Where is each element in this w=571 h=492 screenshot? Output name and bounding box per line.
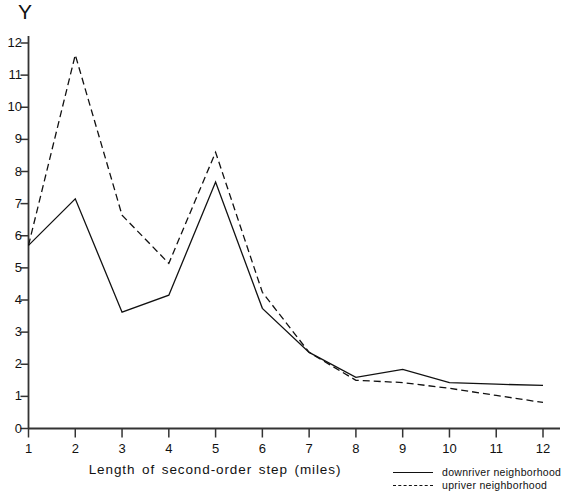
y-tick-label: 11	[0, 67, 22, 82]
legend-item-downriver: downriver neighborhood	[393, 466, 561, 479]
y-tick-label: 4	[0, 292, 22, 307]
x-axis-title: Length of second-order step (miles)	[0, 462, 430, 477]
x-tick-label: 12	[532, 441, 554, 456]
x-tick-label: 4	[158, 441, 180, 456]
x-axis-ticks	[29, 429, 544, 438]
x-tick-label: 2	[64, 441, 86, 456]
series-line-downriver	[29, 182, 544, 385]
y-tick-label: 3	[0, 324, 22, 339]
x-tick-label: 6	[251, 441, 273, 456]
series-line-upriver	[29, 55, 544, 403]
legend-label-downriver: downriver neighborhood	[442, 466, 561, 479]
x-tick-label: 7	[298, 441, 320, 456]
y-tick-label: 7	[0, 196, 22, 211]
x-tick-label: 1	[18, 441, 40, 456]
x-tick-label: 10	[438, 441, 460, 456]
y-tick-label: 0	[0, 421, 22, 436]
axis-lines	[28, 36, 560, 429]
x-tick-label: 5	[205, 441, 227, 456]
y-tick-label: 12	[0, 35, 22, 50]
y-tick-label: 10	[0, 99, 22, 114]
x-tick-label: 11	[485, 441, 507, 456]
y-tick-label: 9	[0, 131, 22, 146]
x-tick-label: 9	[392, 441, 414, 456]
x-tick-label: 3	[111, 441, 133, 456]
y-tick-label: 2	[0, 356, 22, 371]
legend-swatch-dashed-icon	[393, 485, 433, 487]
y-tick-label: 6	[0, 228, 22, 243]
y-tick-label: 5	[0, 260, 22, 275]
series-layer	[29, 55, 544, 403]
legend-label-upriver: upriver neighborhood	[442, 479, 547, 492]
x-tick-label: 8	[345, 441, 367, 456]
y-tick-label: 1	[0, 388, 22, 403]
y-tick-label: 8	[0, 164, 22, 179]
legend-swatch-solid-icon	[393, 472, 433, 474]
chart-legend: downriver neighborhood upriver neighborh…	[393, 466, 561, 492]
legend-item-upriver: upriver neighborhood	[393, 479, 561, 492]
